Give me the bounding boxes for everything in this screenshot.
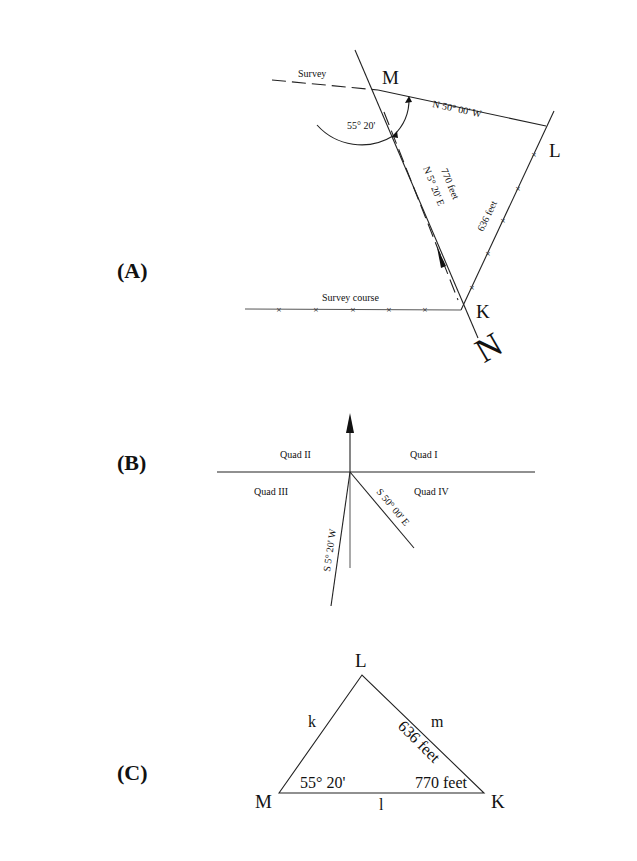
panel-c-label: (C) xyxy=(117,760,148,785)
tick-mark: × xyxy=(500,217,506,225)
side-mk-value: 770 feet xyxy=(415,774,468,791)
angle-m-label: 55° 20' xyxy=(300,774,345,791)
vertex-k-label: K xyxy=(491,791,505,812)
distance-kl-label: 636 feet xyxy=(475,199,499,233)
panel-b-label: (B) xyxy=(117,450,146,475)
side-m-label: m xyxy=(431,713,444,730)
tick-mark: × xyxy=(422,306,428,314)
survey-diagram: (A) Survey × × × × × 55° 20' N 50° 00' W… xyxy=(0,0,637,861)
quad-ii-label: Quad II xyxy=(280,449,311,460)
quad-i-label: Quad I xyxy=(410,449,438,460)
vertex-l-label: L xyxy=(355,650,367,671)
tick-mark: × xyxy=(313,306,319,314)
bearing-se-line xyxy=(350,472,414,548)
north-symbol: N xyxy=(469,325,509,369)
point-k-label: K xyxy=(476,301,490,322)
course-lk-line xyxy=(461,111,554,310)
point-l-label: L xyxy=(549,140,561,161)
tick-mark: × xyxy=(276,306,282,314)
north-arrow-head xyxy=(437,247,446,268)
panel-b: (B) S 5° 20' W S 50° 00' E Quad II Quad … xyxy=(117,413,535,606)
survey-line xyxy=(272,80,378,90)
course-mk-dashed xyxy=(384,112,458,300)
angle-label: 55° 20' xyxy=(347,120,375,131)
tick-mark: × xyxy=(350,306,356,314)
bearing-sw-label: S 5° 20' W xyxy=(321,527,338,572)
panel-c: (C) L M K k m l 55° 20' 770 feet 636 fee… xyxy=(117,650,505,813)
tick-mark: × xyxy=(515,185,521,193)
tick-mark: × xyxy=(531,151,537,159)
survey-course-label: Survey course xyxy=(322,292,379,303)
north-arrow-head xyxy=(346,413,354,433)
survey-label: Survey xyxy=(298,68,326,79)
tick-mark: × xyxy=(485,250,491,258)
side-l-label: l xyxy=(379,796,384,813)
point-m-label: M xyxy=(382,67,399,88)
angle-arc-small xyxy=(393,98,409,136)
bearing-ml-label: N 50° 00' W xyxy=(432,98,484,119)
quad-iv-label: Quad IV xyxy=(414,486,449,497)
vertex-m-label: M xyxy=(255,791,272,812)
panel-a: (A) Survey × × × × × 55° 20' N 50° 00' W… xyxy=(117,50,561,370)
panel-a-label: (A) xyxy=(117,258,148,283)
quad-iii-label: Quad III xyxy=(254,486,288,497)
tick-mark: × xyxy=(386,306,392,314)
tick-mark: × xyxy=(469,284,475,292)
side-k-label: k xyxy=(308,713,316,730)
